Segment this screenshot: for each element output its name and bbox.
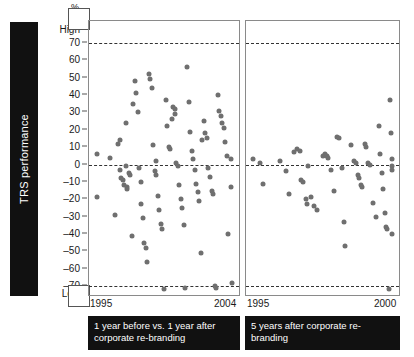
y-tick-label-30: 30 [69,106,80,117]
y-tick-mark [82,215,87,216]
y-tick-label-70: 70 [69,37,80,48]
data-point [155,193,160,198]
y-tick-label-neg50: –50 [63,245,80,256]
data-point [390,167,395,172]
data-point [139,202,144,207]
data-point [191,157,196,162]
data-point [94,195,99,200]
y-tick-mark [82,59,87,60]
axis-break-bottom [68,285,90,307]
data-point [381,186,386,191]
data-point [230,280,235,285]
data-point [177,183,182,188]
data-point [112,212,117,217]
data-point [163,98,168,103]
data-point [172,112,177,117]
data-point [194,181,199,186]
data-point [148,77,153,82]
data-point [139,179,144,184]
y-tick-mark [82,111,87,112]
data-point [340,165,345,170]
panel-2-x-start: 1995 [247,298,269,309]
y-tick-label-neg40: –40 [63,227,80,238]
y-tick-mark [82,42,87,43]
axis-break-top [68,8,90,30]
data-point [208,174,213,179]
data-point [131,101,136,106]
data-point [140,216,145,221]
data-point [204,136,209,141]
y-axis-title-bar: TRS performance [10,22,38,296]
data-point [117,138,122,143]
y-tick-label-20: 20 [69,123,80,134]
chart-root: TRS performance % High Low 7060504030201… [0,0,414,357]
data-point [201,119,206,124]
y-tick-label-neg60: –60 [63,262,80,273]
data-point [125,186,130,191]
y-tick-mark [82,198,87,199]
data-point [286,192,291,197]
panel-2-x-end: 2000 [374,298,396,309]
y-axis-title: TRS performance [18,114,30,204]
data-point [359,185,364,190]
data-point [162,287,167,292]
data-point [137,165,142,170]
y-tick-label-0: 0 [74,158,80,169]
data-point [123,164,128,169]
data-point [169,117,174,122]
data-point [154,159,159,164]
data-point [108,155,113,160]
data-point [283,169,288,174]
reference-line-70 [246,43,399,44]
data-point [157,207,162,212]
panel-2-caption: 5 years after corporate re-branding [245,316,400,350]
data-point [328,167,333,172]
data-point [389,157,394,162]
y-tick-mark [82,128,87,129]
data-point [149,86,154,91]
data-point [181,223,186,228]
data-point [128,172,133,177]
y-tick-label-10: 10 [69,141,80,152]
data-point [304,202,309,207]
panel-1-x-start: 1995 [90,298,112,309]
data-point [160,226,165,231]
y-tick-label-neg20: –20 [63,193,80,204]
y-tick-label-neg10: –10 [63,175,80,186]
y-tick-mark [82,267,87,268]
data-point [368,162,373,167]
y-tick-label-50: 50 [69,71,80,82]
data-point [178,197,183,202]
data-point [206,165,211,170]
data-point [388,98,393,103]
reference-line-0 [246,165,399,166]
data-point [357,176,362,181]
y-tick-mark [82,146,87,147]
y-axis: % High Low 706050403020100–10–20–30–40–5… [40,0,88,310]
panel-1-caption: 1 year before vs. 1 year after corporate… [88,316,240,350]
data-point [343,244,348,249]
data-point [337,136,342,141]
data-point [189,148,194,153]
data-point [331,188,336,193]
y-tick-label-40: 40 [69,89,80,100]
y-tick-label-neg30: –30 [63,210,80,221]
data-point [229,185,234,190]
data-point [198,251,203,256]
data-point [386,287,391,292]
y-tick-mark [82,163,87,164]
data-point [388,131,393,136]
data-point [251,157,256,162]
reference-line-neg70 [246,286,399,287]
data-point [364,145,369,150]
data-point [348,143,353,148]
data-point [341,219,346,224]
data-point [314,207,319,212]
data-point [214,285,219,290]
data-point [129,233,134,238]
data-point [185,65,190,70]
data-point [300,179,305,184]
data-point [297,148,302,153]
data-point [145,259,150,264]
data-point [376,124,381,129]
